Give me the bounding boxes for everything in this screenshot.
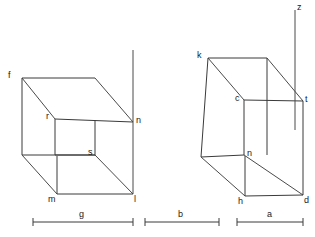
left-cube-geometry [22, 50, 133, 194]
z-axis-label: z [297, 3, 302, 12]
right-cube-geometry [201, 58, 303, 196]
dimension-line-a [237, 218, 303, 226]
left-cube-edge-top-n [95, 78, 133, 122]
dimension-label-b: b [178, 210, 183, 219]
vertex-label-n-right: n [247, 149, 252, 158]
dimension-label-a: a [267, 210, 272, 219]
right-cube-edge-n-d [244, 155, 303, 195]
right-cube-edge-h-d [245, 195, 303, 196]
left-cube-edge-back-m [22, 155, 57, 194]
vertex-label-r: r [46, 112, 49, 121]
left-cube-edge-r-n [55, 119, 133, 122]
vertex-label-f: f [8, 71, 11, 80]
right-cube-edge-bottom-back [201, 155, 244, 157]
vertex-label-c: c [235, 94, 240, 103]
vertex-label-m: m [48, 195, 56, 204]
vertex-label-d: d [304, 196, 309, 205]
vertex-label-l: l [134, 195, 136, 204]
diagram-canvas: z f r n s m l k c t n h d g b a [0, 0, 315, 237]
dimension-label-g: g [79, 210, 84, 219]
right-cube-edge-back-h [201, 157, 245, 196]
vertex-label-k: k [197, 51, 202, 60]
left-cube-edge-f-r [22, 78, 55, 119]
right-cube-edge-top-t [267, 58, 303, 101]
vertex-label-n-left: n [136, 116, 141, 125]
right-cube-edge-c-t [244, 100, 303, 101]
right-cube-edge-k-backbottom [201, 58, 208, 157]
vertex-label-s: s [88, 148, 93, 157]
dimension-line-g [33, 218, 133, 226]
dimension-line-b [145, 218, 219, 226]
vertex-label-h: h [238, 197, 243, 206]
vertex-label-t: t [305, 95, 308, 104]
left-cube-edge-s-l [95, 155, 133, 194]
